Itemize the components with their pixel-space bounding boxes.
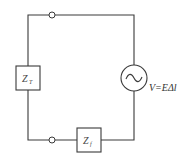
wire-bottom bbox=[28, 90, 77, 140]
impedance-zf: Z f bbox=[77, 128, 101, 152]
zt-label: Z bbox=[22, 73, 28, 84]
ac-source bbox=[121, 65, 147, 91]
impedance-zt: Z T bbox=[16, 66, 40, 90]
source-label: V=EΔl bbox=[149, 82, 177, 93]
wire-right bbox=[101, 91, 134, 140]
terminal-bottom bbox=[49, 137, 55, 143]
zf-label: Z bbox=[83, 135, 89, 146]
wire-top bbox=[28, 15, 134, 67]
circuit-diagram: Z T Z f V=EΔl bbox=[0, 0, 193, 167]
terminal-top bbox=[49, 12, 55, 18]
